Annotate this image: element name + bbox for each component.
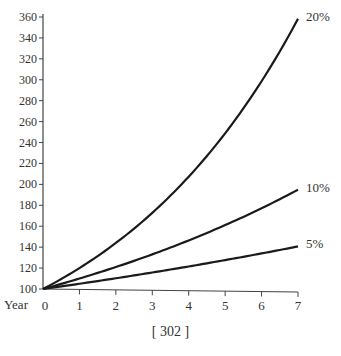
growth-chart: 1001201401601802002202402602803003203403… bbox=[0, 0, 341, 320]
x-tick-label: 7 bbox=[295, 298, 302, 313]
series-labels: 20%10%5% bbox=[306, 9, 330, 252]
y-tick-label: 180 bbox=[19, 198, 37, 212]
x-tick-label: 0 bbox=[42, 298, 49, 313]
series-label-5pct: 5% bbox=[306, 236, 324, 251]
y-tick-label: 140 bbox=[19, 240, 37, 254]
y-tick-label: 200 bbox=[19, 177, 37, 191]
series-label-20pct: 20% bbox=[306, 9, 330, 24]
x-tick-label: 3 bbox=[149, 298, 156, 313]
y-tick-label: 280 bbox=[19, 94, 37, 108]
x-axis-label: Year bbox=[4, 297, 29, 312]
page-number: [ 302 ] bbox=[0, 324, 341, 340]
y-tick-label: 300 bbox=[19, 73, 37, 87]
y-tick-label: 260 bbox=[19, 115, 37, 129]
x-axis: 01234567 bbox=[42, 289, 302, 313]
y-tick-label: 220 bbox=[19, 156, 37, 170]
y-tick-label: 120 bbox=[19, 261, 37, 275]
y-tick-label: 360 bbox=[19, 10, 37, 24]
x-tick-label: 4 bbox=[185, 298, 192, 313]
y-axis: 1001201401601802002202402602803003203403… bbox=[19, 10, 43, 296]
y-tick-label: 100 bbox=[19, 282, 37, 296]
x-tick-label: 2 bbox=[113, 298, 120, 313]
x-tick-label: 5 bbox=[222, 298, 229, 313]
y-tick-label: 160 bbox=[19, 219, 37, 233]
x-tick-label: 1 bbox=[76, 298, 83, 313]
y-tick-label: 240 bbox=[19, 136, 37, 150]
x-tick-label: 6 bbox=[258, 298, 265, 313]
y-tick-label: 320 bbox=[19, 52, 37, 66]
series-line-10pct bbox=[43, 190, 298, 289]
series-label-10pct: 10% bbox=[306, 180, 330, 195]
y-tick-label: 340 bbox=[19, 31, 37, 45]
series-lines bbox=[43, 19, 298, 289]
